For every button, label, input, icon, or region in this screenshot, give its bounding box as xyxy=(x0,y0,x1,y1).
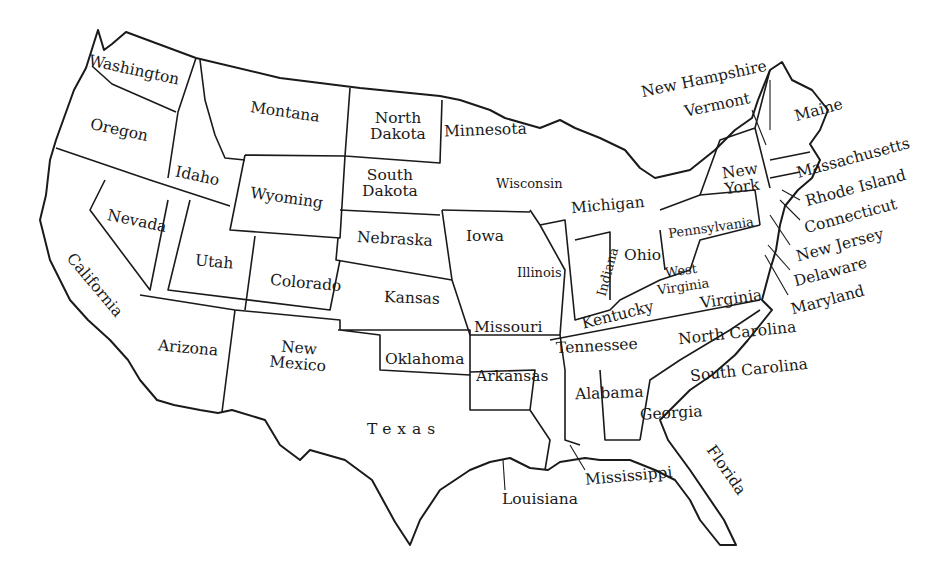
state-label-utah: Utah xyxy=(194,252,234,271)
state-label-illinois: Illinois xyxy=(517,265,562,281)
state-label-north-dakota: North Dakota xyxy=(370,110,426,142)
state-label-kansas: Kansas xyxy=(384,289,440,307)
state-label-georgia: Georgia xyxy=(640,403,703,422)
state-label-alabama: Alabama xyxy=(575,384,644,402)
state-label-tennessee: Tennessee xyxy=(556,336,638,356)
state-label-arkansas: Arkansas xyxy=(476,368,548,384)
state-label-new-york: New York xyxy=(721,161,761,198)
state-label-wisconsin: Wisconsin xyxy=(496,176,563,192)
state-label-nebraska: Nebraska xyxy=(357,229,434,249)
state-label-new-mexico: New Mexico xyxy=(269,338,328,375)
state-label-minnesota: Minnesota xyxy=(444,121,527,140)
state-label-missouri: Missouri xyxy=(474,319,542,335)
state-label-south-dakota: South Dakota xyxy=(362,167,418,199)
state-label-texas: Texas xyxy=(367,421,441,437)
state-label-ohio: Ohio xyxy=(624,247,661,263)
state-label-louisiana: Louisiana xyxy=(502,491,578,507)
state-label-iowa: Iowa xyxy=(466,228,504,244)
state-label-oklahoma: Oklahoma xyxy=(385,351,465,367)
